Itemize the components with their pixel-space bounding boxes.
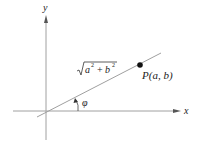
point-p [137,62,143,68]
y-axis-arrow-icon [44,15,48,23]
angle-label: φ [82,97,88,108]
svg-text:+: + [97,64,103,75]
y-axis-label: y [42,2,48,13]
svg-text:a: a [85,64,90,75]
svg-text:2: 2 [91,62,94,68]
svg-text:2: 2 [112,62,115,68]
magnitude-label: a 2 + b 2 [77,62,117,75]
point-label: P(a, b) [141,69,173,82]
svg-text:b: b [105,64,110,75]
coordinate-diagram: y x P(a, b) a 2 + b 2 φ [0,0,199,146]
vector-line [37,53,161,117]
x-axis-arrow-icon [173,109,181,113]
x-axis-label: x [183,105,189,116]
